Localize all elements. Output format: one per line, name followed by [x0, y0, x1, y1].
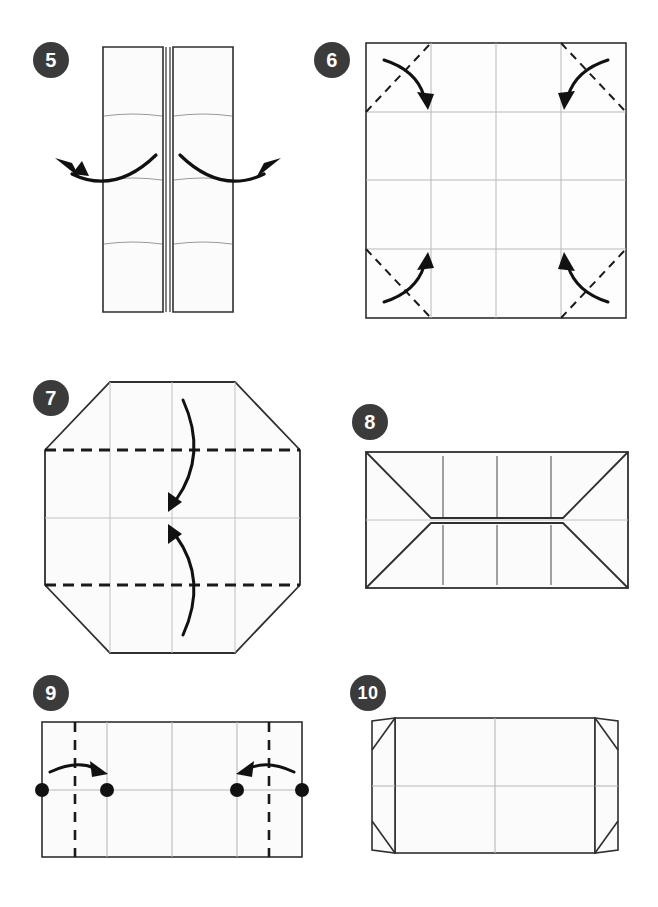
- instruction-sheet: 5: [0, 0, 658, 907]
- step-number-badge-7: 7: [33, 380, 69, 416]
- reference-dot-1: [35, 783, 49, 797]
- reference-dot-2: [100, 783, 114, 797]
- reference-dot-3: [230, 783, 244, 797]
- step-5-panel: 5: [0, 0, 329, 340]
- step-6-panel: 6: [300, 0, 658, 340]
- step-number-badge-5: 5: [33, 42, 69, 78]
- step-7-panel: 7: [0, 340, 340, 670]
- step-6-figure: [300, 0, 658, 340]
- step-number-badge-9: 9: [33, 675, 69, 711]
- step-number-badge-6: 6: [314, 42, 350, 78]
- step-number-badge-10: 10: [350, 675, 386, 711]
- step-10-panel: 10: [330, 660, 658, 907]
- reference-dot-4: [295, 783, 309, 797]
- step-8-panel: 8: [330, 390, 658, 620]
- step-9-panel: 9: [0, 660, 340, 907]
- step-number-badge-8: 8: [352, 404, 388, 440]
